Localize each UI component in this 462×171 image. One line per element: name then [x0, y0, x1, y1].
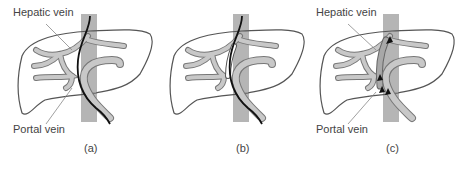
panel-caption: (a) [84, 142, 97, 154]
panel-c: Hepatic vein Portal vein (c) [302, 0, 456, 171]
panel-a: Hepatic vein Portal vein (a) [0, 0, 154, 171]
panel-caption: (c) [386, 142, 399, 154]
portal-leader [46, 88, 72, 124]
panel-b: (b) [152, 0, 306, 171]
liver-diagram-a [0, 0, 154, 171]
panel-caption: (b) [236, 142, 249, 154]
hepatic-vein-label: Hepatic vein [316, 6, 377, 18]
liver-diagram-b [152, 0, 306, 171]
hepatic-vein-label: Hepatic vein [13, 6, 74, 18]
portal-vein-label: Portal vein [316, 123, 368, 135]
liver-diagram-c [302, 0, 462, 171]
portal-vein-label: Portal vein [13, 123, 65, 135]
